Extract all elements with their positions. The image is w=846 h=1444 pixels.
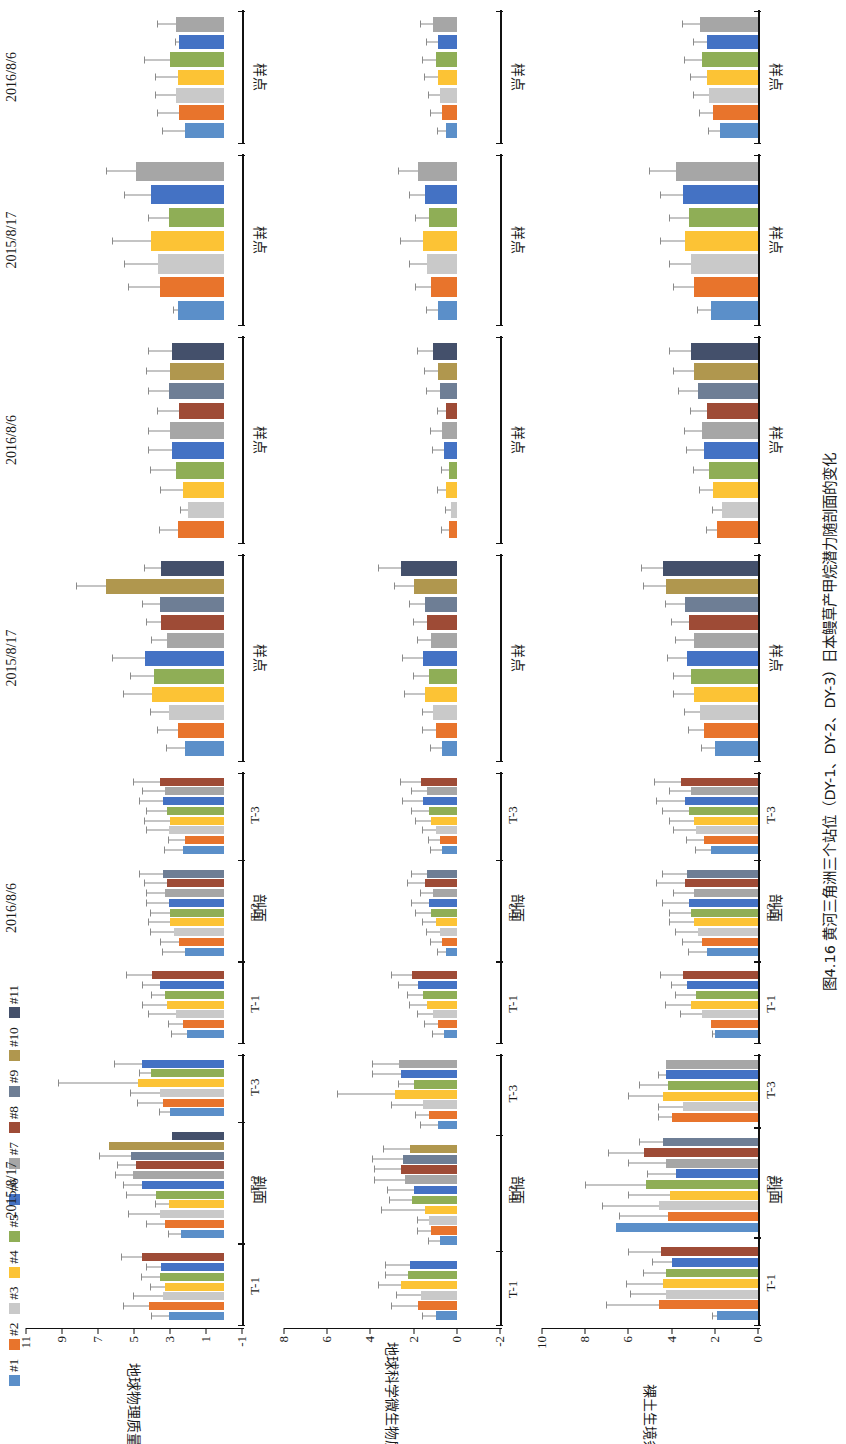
bar-fill xyxy=(161,1263,224,1271)
error-bar xyxy=(713,1033,715,1034)
bar xyxy=(696,991,759,999)
plot-area xyxy=(542,10,760,144)
bar-fill xyxy=(178,70,225,85)
error-bar xyxy=(674,287,693,288)
error-bar-cap xyxy=(146,1220,147,1227)
bar xyxy=(691,787,758,795)
bar-fill xyxy=(429,1111,457,1120)
error-bar xyxy=(627,1283,664,1284)
error-bar xyxy=(687,450,704,451)
error-bar xyxy=(167,748,185,749)
bar xyxy=(138,1079,242,1087)
bar-fill xyxy=(165,787,224,795)
bar xyxy=(178,70,243,85)
bar-fill xyxy=(433,343,457,360)
error-bar xyxy=(410,194,425,195)
chart-panel: 2016/8/6T-1T-2T-3剖面 xyxy=(26,772,276,1044)
error-bar-cap xyxy=(378,565,379,572)
error-bar xyxy=(373,1074,401,1075)
bar xyxy=(170,52,242,67)
error-bar xyxy=(143,1004,166,1005)
rotated-page-wrapper: #1#2#3#4#5#6#7#8#9#10#11 地球物理质量衰减 (↓)-11… xyxy=(0,0,846,1444)
bar-fill xyxy=(179,403,224,420)
bar-fill xyxy=(694,918,759,926)
bar-fill xyxy=(160,597,225,612)
error-bar-cap xyxy=(166,745,167,752)
bar xyxy=(185,123,243,138)
error-bar xyxy=(427,391,440,392)
bar-fill xyxy=(666,579,759,594)
bar-fill xyxy=(442,105,457,120)
error-bar xyxy=(691,410,706,411)
error-bar-cap xyxy=(420,890,421,897)
bar-fill xyxy=(711,1020,759,1028)
error-bar xyxy=(629,1096,664,1097)
error-bar-cap xyxy=(428,92,429,99)
error-bar-cap xyxy=(437,407,438,414)
error-bar xyxy=(657,883,685,884)
error-bar xyxy=(672,622,689,623)
bar xyxy=(449,462,501,479)
bar-fill xyxy=(691,1001,758,1009)
bar xyxy=(659,1201,758,1210)
group-tick-marks xyxy=(754,10,761,144)
bar-fill xyxy=(152,971,224,979)
error-bar-cap xyxy=(422,919,423,926)
error-bar xyxy=(418,1230,431,1231)
bar xyxy=(694,817,759,825)
bar-fill xyxy=(160,1210,225,1218)
error-bar xyxy=(147,622,161,623)
bar xyxy=(694,889,759,897)
bar-fill xyxy=(666,1290,759,1299)
error-bar-cap xyxy=(426,929,427,936)
bar xyxy=(442,422,500,439)
error-bar xyxy=(670,217,689,218)
error-bar xyxy=(149,1014,176,1015)
error-bar-cap xyxy=(175,39,176,46)
bar-fill xyxy=(179,938,224,946)
error-bar xyxy=(151,912,171,913)
bar-fill xyxy=(161,561,224,576)
bar xyxy=(438,1020,501,1028)
bar-fill xyxy=(408,1271,458,1280)
error-bar xyxy=(702,748,715,749)
group-tick xyxy=(496,555,503,556)
error-bar-cap xyxy=(168,1021,169,1028)
group-tick xyxy=(238,1325,245,1326)
bar-fill xyxy=(683,185,759,204)
error-bar-cap xyxy=(374,1166,375,1173)
error-bar xyxy=(670,912,692,913)
bar-fill xyxy=(446,482,457,499)
bar-fill xyxy=(685,231,758,250)
bar-fill xyxy=(436,723,458,738)
error-bar xyxy=(174,310,178,311)
bar xyxy=(446,123,500,138)
y-tick-label: 11 xyxy=(18,1336,34,1349)
error-bar-cap xyxy=(126,972,127,979)
error-bar xyxy=(129,1214,160,1215)
error-bar-cap xyxy=(430,938,431,945)
bar xyxy=(431,1226,500,1235)
bar-fill xyxy=(178,521,225,538)
error-bar-cap xyxy=(146,899,147,906)
error-bar xyxy=(655,781,681,782)
chart-row: 地球科学微生物质量衰减 (↓)-202468T-1T-2T-3剖面T-1T-2T… xyxy=(284,0,534,1444)
error-bar-cap xyxy=(133,1293,134,1300)
bar xyxy=(151,231,243,250)
error-bar-cap xyxy=(415,1111,416,1118)
bar-fill xyxy=(151,231,225,250)
error-bar xyxy=(169,1024,183,1025)
bar-fill xyxy=(160,778,225,786)
bar xyxy=(170,1108,242,1116)
bars-container xyxy=(542,154,758,326)
y-tick-mark xyxy=(170,1328,171,1334)
bar-fill xyxy=(160,277,225,296)
bars-container xyxy=(284,154,500,326)
bar-fill xyxy=(156,1191,224,1199)
error-bar xyxy=(392,975,411,976)
error-bar xyxy=(107,171,136,172)
y-tick-mark xyxy=(456,1328,457,1334)
error-bar xyxy=(161,941,179,942)
error-bar xyxy=(410,1004,427,1005)
bar-fill xyxy=(676,1169,758,1178)
